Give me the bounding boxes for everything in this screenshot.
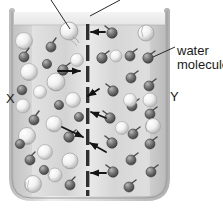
callout-label-line-2: molecule — [177, 57, 223, 72]
callout-label-line-1: water — [177, 43, 209, 58]
semipermeable-membrane — [86, 24, 89, 198]
beaker-contents — [14, 12, 165, 198]
diagram-canvas — [0, 0, 223, 209]
region-label-y: Y — [170, 90, 179, 104]
air-gap — [14, 12, 165, 25]
region-label-x: X — [6, 92, 15, 106]
callout-label-water-molecule: watermolecule — [177, 44, 223, 72]
